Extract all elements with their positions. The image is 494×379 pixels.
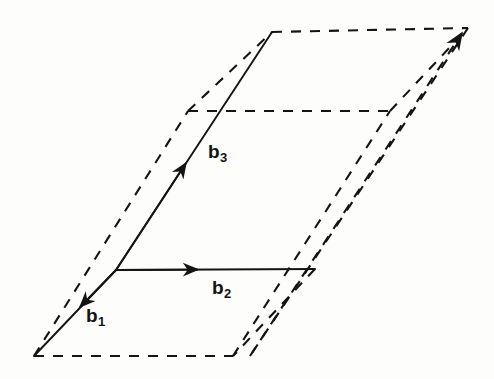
vector-arrowheads [80,163,198,307]
dashed-diagonal-with-arrow [250,33,462,356]
dashed-edge-back-top [272,28,468,32]
vector-label-b1-subscript: 1 [98,314,105,329]
dashed-body-diagonal-arrow [250,33,462,356]
lattice-cell-figure: b1 b2 b3 [0,0,494,379]
vector-label-b2-subscript: 2 [224,286,231,301]
vector-label-b3: b3 [208,142,227,161]
dashed-edge-b2tip-to-front-bottom [233,269,315,356]
dashed-edge-front-left [34,111,188,356]
vector-label-b3-subscript: 3 [220,150,227,165]
vector-label-b2: b2 [212,278,231,297]
solid-basis-vectors [34,32,315,356]
dashed-edge-front-right [233,111,390,356]
vector-label-b1: b1 [86,306,105,325]
dashed-edge-depth-top-left [188,32,272,111]
vector-label-b3-base: b [208,141,220,162]
arrowhead-b3 [116,163,186,270]
lattice-diagram-svg [0,0,494,379]
vector-label-b2-base: b [212,277,224,298]
dashed-edge-depth-top-right [390,28,468,111]
vector-label-b1-base: b [86,305,98,326]
